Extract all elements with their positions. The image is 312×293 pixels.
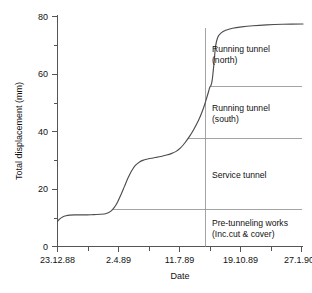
x-tick-label: 19.10.89 <box>223 255 258 265</box>
annotation-line: Pre-tunneling works <box>212 218 288 228</box>
y-tick-label: 20 <box>38 184 48 194</box>
y-tick-label: 80 <box>38 12 48 22</box>
annotation-line: Service tunnel <box>212 170 267 180</box>
annotation-service-tunnel: Service tunnel <box>212 170 267 180</box>
annotation-line: Running tunnel <box>212 44 270 54</box>
y-tick-label: 40 <box>38 127 48 137</box>
annotation-line: (south) <box>212 114 239 124</box>
y-axis-title: Total displacement (mm) <box>14 82 24 180</box>
annotation-line: Running tunnel <box>212 103 270 113</box>
x-axis-title: Date <box>170 271 189 281</box>
x-tick-label: 2.4.89 <box>106 255 131 265</box>
x-tick-label: 11.7.89 <box>165 255 194 265</box>
x-tick-label: 23.12.88 <box>40 255 75 265</box>
annotation-line: (north) <box>212 55 237 65</box>
y-tick-label: 60 <box>38 69 48 79</box>
y-tick-label: 0 <box>43 242 48 252</box>
x-tick-label: 27.1.90 <box>284 255 312 265</box>
chart-figure: 80 60 40 20 0 Total displacement (mm) 23… <box>0 0 312 293</box>
chart-canvas: 80 60 40 20 0 Total displacement (mm) 23… <box>0 0 312 293</box>
annotation-line: (Inc.cut & cover) <box>212 229 275 239</box>
